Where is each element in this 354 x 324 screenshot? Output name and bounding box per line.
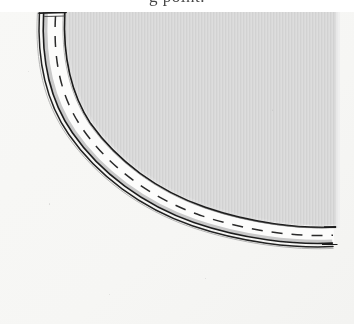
road-top-cap (39, 12, 66, 13)
figure-artwork (0, 0, 354, 324)
inner-field-right-fade (336, 12, 340, 228)
figure-root: g point. (0, 0, 354, 324)
road-top-cap-inner (45, 16, 65, 17)
